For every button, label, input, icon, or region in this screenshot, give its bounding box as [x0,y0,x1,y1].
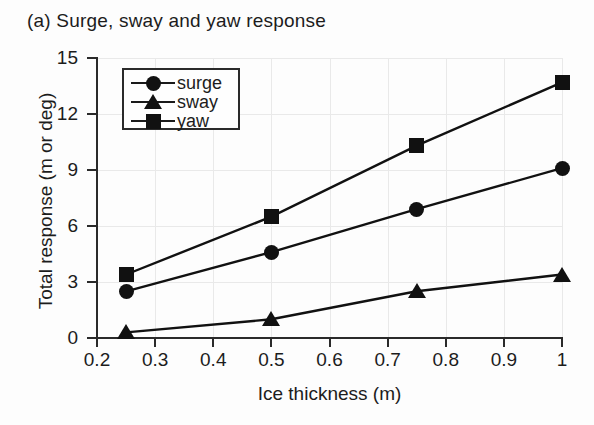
legend-item-surge: surge [124,73,238,93]
legend-marker-circle-icon [129,73,177,93]
series-lines [0,0,594,425]
legend-marker-square-icon [129,111,177,131]
legend-line-segment [131,82,175,84]
legend-item-sway: sway [124,92,238,112]
legend-line-segment [131,120,175,122]
legend-item-yaw: yaw [124,111,238,131]
legend-marker-triangle-icon [129,92,177,112]
legend-line-segment [131,101,175,103]
series-line-sway [126,275,562,333]
chart-figure-panel: (a) Surge, sway and yaw response 0369121… [0,0,594,425]
series-line-surge [126,168,562,291]
legend-box: surgeswayyaw [122,68,240,130]
legend-label: yaw [177,112,209,130]
legend-label: sway [177,93,218,111]
legend-label: surge [177,74,222,92]
